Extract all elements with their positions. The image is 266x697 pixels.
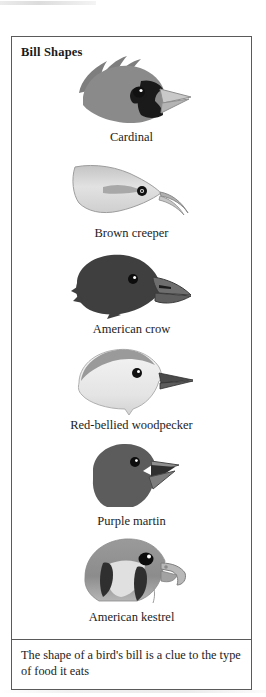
brown-creeper-pupil [140,190,142,192]
american-kestrel-eye-highlight [147,555,151,559]
bird-entry-american-kestrel: American kestrel [12,531,251,625]
figure-caption: The shape of a bird's bill is a clue to … [21,647,245,679]
bird-entry-american-crow: American crow [12,243,251,337]
red-bellied-woodpecker-illustration [12,339,251,417]
brown-creeper-illustration [12,147,251,225]
purple-martin-illustration [12,435,251,513]
american-crow-upper-bill [153,277,191,295]
brown-creeper-upper-bill [160,192,188,213]
scan-artifact-top [0,1,96,5]
cardinal-eye-highlight [139,89,142,92]
purple-martin-eye [130,457,140,467]
purple-martin-head [92,444,154,507]
bird-label-purple-martin: Purple martin [12,514,251,529]
bird-label-brown-creeper: Brown creeper [12,226,251,241]
bird-label-american-crow: American crow [12,322,251,337]
scan-artifact-bottom [0,690,266,693]
american-kestrel-eye [138,553,153,566]
bird-entry-red-bellied-woodpecker: Red-bellied woodpecker [12,339,251,433]
bird-entry-purple-martin: Purple martin [12,435,251,529]
bird-entry-cardinal: Cardinal [12,51,251,145]
bird-label-american-kestrel: American kestrel [12,610,251,625]
figure-frame: Bill Shapes [11,36,252,690]
bird-label-red-bellied-woodpecker: Red-bellied woodpecker [12,418,251,433]
purple-martin-eye-highlight [135,459,138,462]
caption-divider [12,639,251,640]
american-crow-eye [128,274,138,284]
american-crow-eye-highlight [133,276,136,279]
cardinal-eye [133,87,145,98]
bird-label-cardinal: Cardinal [12,130,251,145]
american-crow-head [76,255,161,315]
american-kestrel-nostril [164,565,168,569]
cardinal-illustration [12,51,251,129]
american-kestrel-illustration [12,531,251,609]
american-crow-illustration [12,243,251,321]
red-bellied-woodpecker-eye [132,368,142,378]
bird-entry-brown-creeper: Brown creeper [12,147,251,241]
red-bellied-woodpecker-eye-highlight [137,370,140,373]
